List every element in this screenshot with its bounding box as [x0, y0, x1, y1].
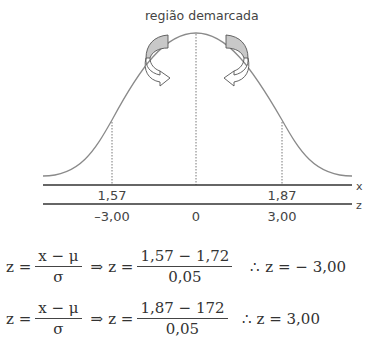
equation-lhs: z = [6, 310, 31, 328]
curved-arrow-left-icon [145, 35, 170, 86]
curved-arrow-right-icon [224, 35, 249, 86]
implies-symbol: ⇒ [91, 310, 104, 328]
z-formula-fraction: x − μ σ [35, 247, 81, 286]
z-formula-fraction: x − μ σ [35, 299, 81, 338]
equation-lhs: z = [6, 258, 31, 276]
equation-result: z = 3,00 [257, 310, 320, 328]
z-tick-label: 0 [192, 209, 200, 224]
z-axis-label: z [356, 199, 362, 212]
x-tick-label: 1,57 [98, 188, 127, 203]
equation-1: z = x − μ σ ⇒ z = 1,57 − 1,72 0,05 ∴ z =… [6, 247, 346, 286]
equation-result: z = − 3,00 [265, 258, 346, 276]
therefore-symbol: ∴ [242, 310, 252, 328]
bell-curve [43, 33, 352, 176]
implies-symbol: ⇒ [91, 258, 104, 276]
x-axis-label: x [356, 180, 363, 193]
z-tick-label: –3,00 [94, 209, 129, 224]
therefore-symbol: ∴ [250, 258, 260, 276]
x-tick-label: 1,87 [268, 188, 297, 203]
equation-lhs-2: z = [108, 258, 133, 276]
equation-lhs-2: z = [108, 310, 133, 328]
equation-2: z = x − μ σ ⇒ z = 1,87 − 172 0,05 ∴ z = … [6, 299, 320, 338]
value-fraction: 1,57 − 1,72 0,05 [137, 247, 232, 286]
z-tick-label: 3,00 [268, 209, 297, 224]
value-fraction: 1,87 − 172 0,05 [137, 299, 227, 338]
bell-curve-graphic [0, 0, 375, 230]
